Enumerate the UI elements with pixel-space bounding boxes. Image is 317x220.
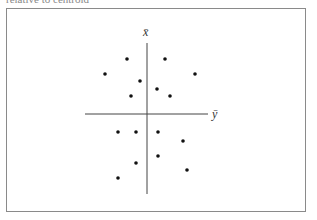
data-point <box>116 130 120 134</box>
data-point <box>125 57 129 61</box>
data-point <box>129 94 133 98</box>
data-point <box>163 57 167 61</box>
data-point <box>134 161 138 165</box>
data-point <box>156 154 160 158</box>
data-point <box>185 168 189 172</box>
data-point <box>181 139 185 143</box>
data-point <box>155 87 159 91</box>
scatter-diagram: x̄ ȳ <box>0 0 317 220</box>
data-point <box>156 130 160 134</box>
data-point <box>103 72 107 76</box>
data-point <box>134 130 138 134</box>
vertical-axis-label: x̄ <box>142 25 149 39</box>
data-point <box>138 79 142 83</box>
data-point <box>168 94 172 98</box>
data-points <box>103 57 197 180</box>
data-point <box>193 72 197 76</box>
horizontal-axis-label: ȳ <box>211 107 218 121</box>
data-point <box>116 176 120 180</box>
